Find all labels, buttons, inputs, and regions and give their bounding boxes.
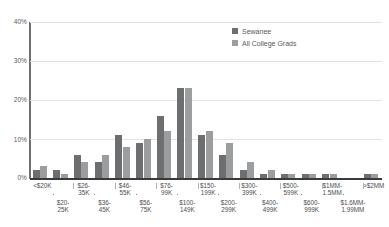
x-tick-label: >$2MM (353, 182, 389, 189)
x-tick-mark (239, 183, 240, 189)
x-tick-dot (136, 194, 137, 195)
x-tick-label: $500- 599K (270, 182, 312, 197)
bar-sewanee (136, 143, 143, 178)
bar-sewanee (198, 135, 205, 178)
bar-group (364, 22, 385, 178)
x-tick-label: $26- 35K (63, 182, 105, 197)
x-tick-dot (301, 194, 302, 195)
y-tick-label: 10% (1, 136, 27, 143)
y-axis: 40% 30% 20% 10% 0% (0, 0, 27, 200)
x-tick-label: $400- 499K (249, 199, 291, 214)
bar-group (33, 22, 54, 178)
x-tick-dot (343, 194, 344, 195)
x-tick-dot (53, 194, 54, 195)
bar-all-college-grads (185, 88, 192, 178)
income-distribution-bar-chart: 40% 30% 20% 10% 0% Sewanee All College G… (0, 0, 389, 227)
x-tick-dot (177, 194, 178, 195)
legend-label: All College Grads (242, 39, 296, 48)
bar-group (343, 22, 364, 178)
plot-area (30, 22, 382, 178)
bar-sewanee (74, 155, 81, 178)
bar-sewanee (33, 170, 40, 178)
legend-label: Sewanee (242, 27, 271, 36)
x-tick-label: <$20K (21, 182, 63, 189)
x-tick-label: $46- 55K (104, 182, 146, 197)
bar-sewanee (219, 155, 226, 178)
x-tick-label: $20- 25K (42, 199, 84, 214)
x-axis: <$20K$20- 25K$26- 35K$36- 45K$46- 55K$56… (30, 180, 382, 227)
legend-swatch-icon (232, 28, 238, 34)
bar-group (53, 22, 74, 178)
bar-group (157, 22, 178, 178)
x-tick-mark (156, 183, 157, 189)
bar-group (136, 22, 157, 178)
x-tick-mark (363, 183, 364, 189)
legend-swatch-icon (232, 40, 238, 46)
legend: Sewanee All College Grads (232, 26, 296, 50)
bar-group (322, 22, 343, 178)
y-tick-label: 20% (1, 96, 27, 103)
bar-group (74, 22, 95, 178)
x-tick-label: $300- 399K (228, 182, 270, 197)
bar-sewanee (53, 170, 60, 178)
x-tick-label: $1MM- 1.5MM (311, 182, 353, 197)
x-tick-mark (115, 183, 116, 189)
legend-item-all-college-grads: All College Grads (232, 38, 296, 48)
bar-all-college-grads (123, 147, 130, 178)
bar-all-college-grads (164, 131, 171, 178)
x-tick-dot (94, 194, 95, 195)
x-tick-label: $100- 149K (166, 199, 208, 214)
bar-sewanee (240, 170, 247, 178)
bar-group (302, 22, 323, 178)
x-tick-label: $1.6MM- 1.99MM (332, 199, 374, 214)
bar-sewanee (95, 162, 102, 178)
bar-all-college-grads (81, 162, 88, 178)
bar-group (95, 22, 116, 178)
x-tick-label: $56- 75K (125, 199, 167, 214)
bar-all-college-grads (247, 162, 254, 178)
x-tick-dot (218, 194, 219, 195)
bar-group (198, 22, 219, 178)
x-tick-label: $150- 199K (187, 182, 229, 197)
legend-item-sewanee: Sewanee (232, 26, 296, 36)
x-tick-label: $36- 45K (83, 199, 125, 214)
x-tick-label: $76- 99K (146, 182, 188, 197)
y-tick-label: 40% (1, 18, 27, 25)
y-tick-label: 0% (1, 174, 27, 181)
x-tick-mark (198, 183, 199, 189)
bar-all-college-grads (40, 166, 47, 178)
bar-all-college-grads (102, 155, 109, 178)
bar-group (115, 22, 136, 178)
bar-sewanee (157, 116, 164, 178)
bar-sewanee (177, 88, 184, 178)
bar-sewanee (115, 135, 122, 178)
x-tick-mark (73, 183, 74, 189)
x-tick-label: $200- 299K (208, 199, 250, 214)
y-tick-label: 30% (1, 57, 27, 64)
x-tick-mark (322, 183, 323, 189)
bar-all-college-grads (268, 170, 275, 178)
bar-all-college-grads (144, 139, 151, 178)
x-tick-dot (260, 194, 261, 195)
bar-all-college-grads (226, 143, 233, 178)
bar-all-college-grads (206, 131, 213, 178)
x-tick-mark (280, 183, 281, 189)
bar-group (177, 22, 198, 178)
x-tick-label: $600- 999K (291, 199, 333, 214)
